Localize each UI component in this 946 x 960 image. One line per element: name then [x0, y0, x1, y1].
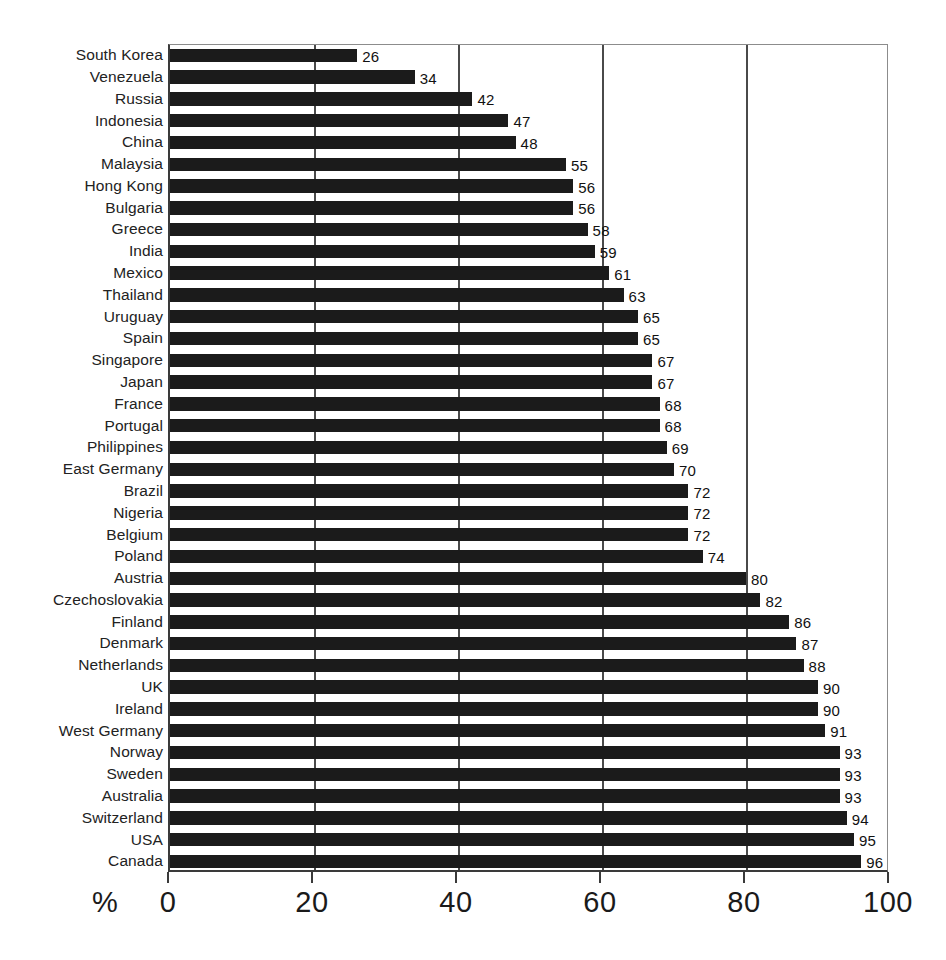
- x-tick-mark: [599, 872, 601, 883]
- bar-row[interactable]: 26: [170, 45, 887, 67]
- bar-row[interactable]: 58: [170, 219, 887, 241]
- bar-row[interactable]: 95: [170, 829, 887, 851]
- bar[interactable]: [170, 419, 660, 432]
- bar-row[interactable]: 87: [170, 633, 887, 655]
- bar[interactable]: [170, 789, 840, 802]
- bar[interactable]: [170, 855, 861, 868]
- x-tick-label: 0: [160, 888, 177, 917]
- bar-value-label: 70: [679, 462, 696, 477]
- bar-value-label: 69: [672, 441, 689, 456]
- bar-value-label: 93: [845, 789, 862, 804]
- bar[interactable]: [170, 136, 516, 149]
- category-label: Finland: [111, 611, 163, 633]
- bar-row[interactable]: 68: [170, 394, 887, 416]
- bar[interactable]: [170, 310, 638, 323]
- bar[interactable]: [170, 332, 638, 345]
- bar[interactable]: [170, 158, 566, 171]
- bar[interactable]: [170, 833, 854, 846]
- bar-row[interactable]: 72: [170, 481, 887, 503]
- bar-row[interactable]: 90: [170, 677, 887, 699]
- bar[interactable]: [170, 92, 472, 105]
- bar-row[interactable]: 68: [170, 415, 887, 437]
- bar[interactable]: [170, 550, 703, 563]
- bar[interactable]: [170, 397, 660, 410]
- bar-row[interactable]: 72: [170, 503, 887, 525]
- category-label: Hong Kong: [85, 175, 163, 197]
- bar[interactable]: [170, 201, 573, 214]
- bar-value-label: 93: [845, 767, 862, 782]
- category-label: Greece: [112, 218, 163, 240]
- bar[interactable]: [170, 49, 357, 62]
- bar-row[interactable]: 70: [170, 459, 887, 481]
- bar-row[interactable]: 48: [170, 132, 887, 154]
- bar-row[interactable]: 42: [170, 89, 887, 111]
- plot-area: 2634424748555656585961636565676768686970…: [168, 44, 888, 872]
- bar-value-label: 26: [362, 48, 379, 63]
- bar[interactable]: [170, 702, 818, 715]
- bar-row[interactable]: 34: [170, 67, 887, 89]
- bar[interactable]: [170, 375, 652, 388]
- bar-row[interactable]: 65: [170, 306, 887, 328]
- bar-row[interactable]: 67: [170, 350, 887, 372]
- bar-row[interactable]: 65: [170, 328, 887, 350]
- bar[interactable]: [170, 506, 688, 519]
- bar-row[interactable]: 90: [170, 699, 887, 721]
- bar[interactable]: [170, 746, 840, 759]
- bar-row[interactable]: 88: [170, 655, 887, 677]
- bar[interactable]: [170, 593, 760, 606]
- bar[interactable]: [170, 114, 508, 127]
- bar-row[interactable]: 63: [170, 285, 887, 307]
- bar[interactable]: [170, 266, 609, 279]
- bar-row[interactable]: 56: [170, 176, 887, 198]
- x-axis-unit-label: %: [92, 888, 118, 917]
- bar[interactable]: [170, 659, 804, 672]
- bar-value-label: 93: [845, 746, 862, 761]
- bar[interactable]: [170, 223, 588, 236]
- bar-row[interactable]: 69: [170, 437, 887, 459]
- category-label: Australia: [102, 785, 163, 807]
- bar[interactable]: [170, 179, 573, 192]
- bar-row[interactable]: 82: [170, 590, 887, 612]
- category-label: Nigeria: [113, 502, 163, 524]
- bar-row[interactable]: 59: [170, 241, 887, 263]
- bar[interactable]: [170, 572, 746, 585]
- bar-row[interactable]: 61: [170, 263, 887, 285]
- bar-row[interactable]: 91: [170, 720, 887, 742]
- x-tick-label: 20: [295, 888, 328, 917]
- bar[interactable]: [170, 245, 595, 258]
- bar-row[interactable]: 86: [170, 612, 887, 634]
- bar-row[interactable]: 67: [170, 372, 887, 394]
- bar-value-label: 72: [693, 506, 710, 521]
- bar-row[interactable]: 55: [170, 154, 887, 176]
- bar[interactable]: [170, 463, 674, 476]
- bar[interactable]: [170, 70, 415, 83]
- bar-value-label: 65: [643, 310, 660, 325]
- bar[interactable]: [170, 724, 825, 737]
- bar-row[interactable]: 96: [170, 851, 887, 873]
- bar[interactable]: [170, 354, 652, 367]
- bar-value-label: 59: [600, 244, 617, 259]
- bar[interactable]: [170, 768, 840, 781]
- bar-row[interactable]: 74: [170, 546, 887, 568]
- bar-row[interactable]: 93: [170, 742, 887, 764]
- bar-row[interactable]: 56: [170, 198, 887, 220]
- bar-row[interactable]: 80: [170, 568, 887, 590]
- bar[interactable]: [170, 484, 688, 497]
- bar[interactable]: [170, 528, 688, 541]
- category-label: UK: [141, 676, 163, 698]
- bar[interactable]: [170, 811, 847, 824]
- category-label: Japan: [120, 371, 163, 393]
- category-axis-labels: South KoreaVenezuelaRussiaIndonesiaChina…: [0, 44, 163, 872]
- bar-row[interactable]: 93: [170, 764, 887, 786]
- bar[interactable]: [170, 680, 818, 693]
- bar[interactable]: [170, 441, 667, 454]
- bar-row[interactable]: 72: [170, 524, 887, 546]
- bar[interactable]: [170, 637, 796, 650]
- category-label: USA: [131, 828, 163, 850]
- bar-row[interactable]: 94: [170, 808, 887, 830]
- category-label: Switzerland: [82, 807, 163, 829]
- bar[interactable]: [170, 288, 624, 301]
- bar-row[interactable]: 47: [170, 110, 887, 132]
- bar-row[interactable]: 93: [170, 786, 887, 808]
- bar[interactable]: [170, 615, 789, 628]
